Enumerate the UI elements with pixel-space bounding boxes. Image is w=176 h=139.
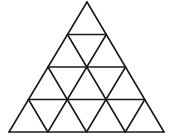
- left-diagonal-grid-line: [29, 100, 48, 133]
- triangle-grid-figure: [0, 0, 176, 139]
- triangle-diagram: Triangle subdivided into 16 small triang…: [0, 0, 176, 139]
- right-diagonal-grid-line: [125, 100, 145, 133]
